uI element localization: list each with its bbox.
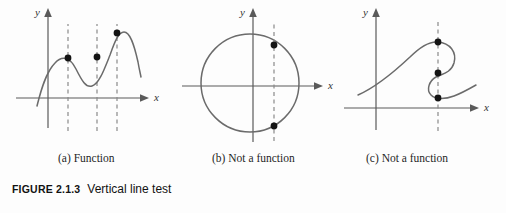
x-axis-label-c: x — [483, 101, 489, 113]
intersection-dot — [114, 30, 121, 37]
circle-curve-b — [201, 34, 299, 132]
intersection-dot — [271, 123, 278, 130]
caption-panel-c: (c) Not a function — [366, 152, 448, 164]
intersection-dot — [271, 42, 278, 49]
intersection-dot — [65, 55, 72, 62]
intersection-dot — [435, 95, 442, 102]
y-axis-c — [372, 8, 380, 130]
intersection-dot — [94, 54, 101, 61]
x-axis-label-b: x — [327, 79, 333, 91]
panel-b-not-a-function: x y — [178, 0, 348, 150]
y-axis-label-b: y — [239, 6, 245, 18]
figure-title: Vertical line test — [87, 182, 171, 196]
figure-caption: FIGURE 2.1.3 Vertical line test — [12, 182, 171, 196]
panel-a-function: x y — [8, 0, 178, 150]
panel-c-not-a-function: x y — [336, 0, 506, 150]
function-curve-a — [37, 32, 141, 106]
panels-row: x y — [0, 0, 506, 150]
caption-panel-a: (a) Function — [58, 152, 115, 164]
x-axis-a — [16, 94, 149, 102]
y-axis-b — [249, 8, 257, 142]
y-axis-label-c: y — [362, 6, 368, 18]
intersection-dot — [435, 70, 442, 77]
figure-container: x y — [0, 0, 506, 213]
x-axis-label-a: x — [153, 91, 159, 103]
panel-captions: (a) Function (b) Not a function (c) Not … — [0, 152, 506, 174]
figure-number: FIGURE 2.1.3 — [12, 183, 80, 195]
y-axis-label-a: y — [34, 6, 40, 18]
x-axis-c — [344, 104, 479, 112]
caption-panel-b: (b) Not a function — [212, 152, 295, 164]
intersection-dot — [435, 39, 442, 46]
